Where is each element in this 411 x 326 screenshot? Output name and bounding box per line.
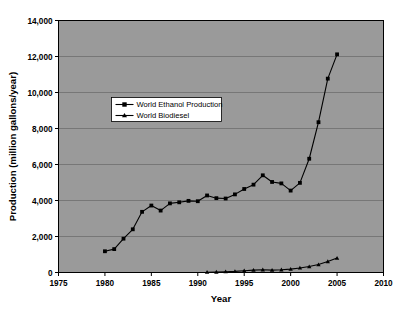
data-marker-square: [177, 200, 181, 204]
data-marker-square: [168, 201, 172, 205]
xtick-label-1985: 1985: [142, 279, 161, 288]
ytick-label-2000: 2,000: [32, 233, 53, 242]
ytick-label-4000: 4,000: [32, 197, 53, 206]
chart-canvas: 02,0004,0006,0008,00010,00012,00014,0001…: [0, 0, 411, 326]
data-marker-square: [112, 247, 116, 251]
ytick-label-8000: 8,000: [32, 125, 53, 134]
data-marker-square: [149, 204, 153, 208]
data-marker-square: [233, 192, 237, 196]
data-marker-square: [159, 209, 163, 213]
ytick-label-6000: 6,000: [32, 161, 53, 170]
legend-label-1: World Ethanol Production: [137, 100, 223, 109]
data-marker-square: [242, 187, 246, 191]
ytick-label-0: 0: [48, 269, 53, 278]
data-marker-square: [307, 157, 311, 161]
data-marker-square: [317, 120, 321, 124]
xtick-label-1995: 1995: [235, 279, 254, 288]
data-marker-square: [252, 183, 256, 187]
data-marker-square: [289, 189, 293, 193]
chart-legend: World Ethanol ProductionWorld Biodiesel: [112, 98, 223, 122]
data-marker-square: [270, 180, 274, 184]
data-marker-square: [205, 194, 209, 198]
ytick-label-14000: 14,000: [27, 17, 52, 26]
data-marker-square: [298, 181, 302, 185]
data-marker-square: [122, 237, 126, 241]
xtick-label-1980: 1980: [96, 279, 115, 288]
plot-area-background: [59, 21, 384, 273]
data-marker-square: [279, 182, 283, 186]
data-marker-square: [261, 173, 265, 177]
data-marker-square: [196, 199, 200, 203]
data-marker-square: [103, 249, 107, 253]
data-marker-square: [326, 77, 330, 81]
xtick-label-2005: 2005: [328, 279, 347, 288]
ytick-label-10000: 10,000: [27, 89, 52, 98]
x-axis-title: Year: [211, 293, 232, 304]
xtick-label-1975: 1975: [49, 279, 68, 288]
data-marker-square: [131, 227, 135, 231]
chart-figure: 02,0004,0006,0008,00010,00012,00014,0001…: [0, 0, 411, 326]
data-marker-square: [122, 102, 126, 106]
xtick-label-2000: 2000: [282, 279, 301, 288]
data-marker-square: [224, 197, 228, 201]
y-axis-title: Production (million gallons/year): [7, 72, 18, 221]
xtick-label-1990: 1990: [189, 279, 208, 288]
xtick-label-2010: 2010: [374, 279, 393, 288]
data-marker-square: [214, 196, 218, 200]
legend-label-2: World Biodiesel: [137, 111, 190, 120]
data-marker-square: [140, 210, 144, 214]
ytick-label-12000: 12,000: [27, 53, 52, 62]
data-marker-square: [187, 199, 191, 203]
data-marker-square: [335, 52, 339, 56]
